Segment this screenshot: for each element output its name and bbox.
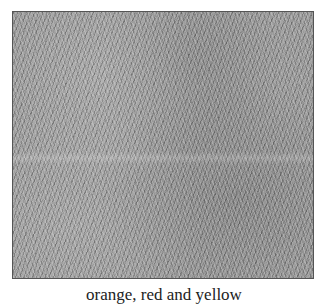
- texture-light-band: [13, 152, 313, 164]
- grass-texture-image: [12, 11, 314, 279]
- figure-caption: orange, red and yellow: [0, 284, 328, 304]
